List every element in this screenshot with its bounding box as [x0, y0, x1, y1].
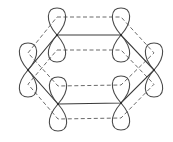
orbital-upper-lobe	[49, 77, 66, 104]
carbon-nucleus	[120, 102, 122, 104]
p-orbital-c3	[145, 43, 162, 97]
orbital-upper-lobe	[112, 8, 129, 35]
benzene-orbital-diagram	[0, 0, 173, 142]
upper-pi-ring	[28, 17, 154, 86]
p-orbital-c6	[19, 43, 36, 97]
orbital-upper-lobe	[145, 43, 162, 70]
lower-pi-ring	[28, 50, 154, 119]
carbon-nucleus	[56, 34, 58, 36]
sigma-bond-hexagon	[28, 35, 154, 104]
orbital-upper-lobe	[112, 76, 129, 103]
orbital-upper-lobe	[19, 43, 36, 70]
orbital-lower-lobe	[112, 103, 129, 130]
orbital-lower-lobe	[112, 35, 129, 62]
carbon-nucleus	[120, 34, 122, 36]
carbon-nucleus	[153, 69, 155, 71]
orbital-lower-lobe	[49, 104, 66, 131]
orbital-lower-lobe	[48, 35, 65, 62]
orbital-upper-lobe	[48, 8, 65, 35]
sigma-hexagon	[28, 35, 154, 104]
carbon-nucleus	[27, 69, 29, 71]
orbital-lower-lobe	[145, 70, 162, 97]
carbon-nucleus	[57, 103, 59, 105]
